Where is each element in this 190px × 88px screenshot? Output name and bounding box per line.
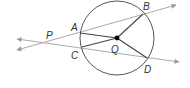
segment-qa (80, 33, 117, 38)
label-q: Q (111, 44, 119, 55)
label-a: A (70, 22, 78, 33)
label-b: B (143, 1, 150, 12)
label-p: P (46, 30, 53, 41)
label-d: D (144, 64, 151, 75)
circle-secant-diagram: P A B C D Q (0, 0, 190, 88)
center-point-q (115, 36, 120, 41)
label-c: C (71, 50, 79, 61)
